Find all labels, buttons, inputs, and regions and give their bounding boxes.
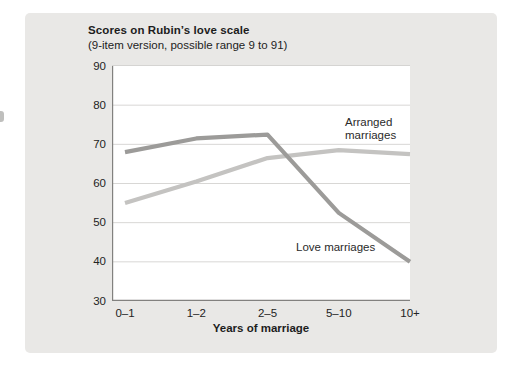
y-tick-label-50: 50 (78, 215, 106, 230)
chart-card: Scores on Rubin’s love scale (9-item ver… (25, 13, 497, 353)
y-tick-label-40: 40 (78, 254, 106, 269)
x-tick-label-4: 5–10 (317, 306, 361, 320)
series-label-arranged-marriages: Arranged marriages (345, 116, 396, 142)
plot-area: 90807060504030 0–11–22–55–1010+ Arranged… (112, 65, 410, 301)
chart-subtitle: (9-item version, possible range 9 to 91) (88, 39, 287, 51)
chart-title: Scores on Rubin’s love scale (88, 24, 250, 36)
y-tick-label-90: 90 (78, 59, 106, 74)
x-tick-label-2: 1–2 (174, 306, 218, 320)
scan-artifact (0, 111, 4, 122)
y-tick-label-30: 30 (78, 294, 106, 309)
series-line-arranged-marriages (125, 150, 410, 203)
series-label-love-marriages: Love marriages (296, 241, 375, 254)
x-tick-label-3: 2–5 (246, 306, 290, 320)
y-tick-label-70: 70 (78, 137, 106, 152)
x-axis-title: Years of marriage (112, 322, 410, 334)
x-tick-label-5: 10+ (388, 306, 432, 320)
y-tick-label-60: 60 (78, 176, 106, 191)
plot-svg (112, 66, 410, 301)
y-tick-label-80: 80 (78, 98, 106, 113)
x-tick-label-1: 0–1 (103, 306, 147, 320)
